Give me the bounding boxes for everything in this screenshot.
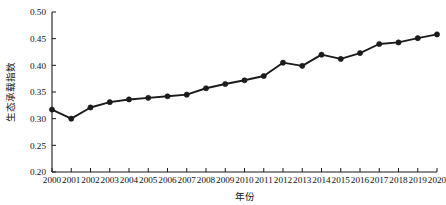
series-data-point	[107, 100, 112, 105]
x-axis-tick-label: 2011	[255, 175, 273, 185]
y-axis-title: 生态承载指数	[5, 62, 16, 122]
series-data-point	[126, 97, 131, 102]
x-axis-tick-label: 2010	[235, 175, 254, 185]
x-axis-tick-label: 2018	[389, 175, 408, 185]
x-axis-tick-label: 2005	[139, 175, 158, 185]
y-axis-tick-label: 0.30	[30, 114, 46, 124]
x-axis-tick-label: 2017	[370, 175, 389, 185]
chart-plot-area: 0.200.250.300.350.400.450.50200020012002…	[5, 7, 446, 202]
y-axis-tick-label: 0.45	[30, 34, 46, 44]
x-axis-tick-label: 2004	[120, 175, 139, 185]
series-line-ecological-index	[52, 34, 437, 118]
y-axis-tick-label: 0.50	[30, 7, 46, 17]
series-data-point	[242, 78, 247, 83]
x-axis-tick-label: 2014	[312, 175, 331, 185]
x-axis-tick-label: 2012	[274, 175, 293, 185]
series-data-point	[415, 36, 420, 41]
series-data-point	[223, 81, 228, 86]
x-axis-tick-label: 2009	[216, 175, 235, 185]
x-axis-tick-label: 2001	[62, 175, 81, 185]
series-data-point	[49, 107, 54, 112]
x-axis-tick-label: 2016	[351, 175, 370, 185]
series-data-point	[377, 41, 382, 46]
x-axis-tick-label: 2006	[158, 175, 177, 185]
x-axis-tick-label: 2019	[409, 175, 428, 185]
x-axis-tick-label: 2007	[178, 175, 197, 185]
series-data-point	[300, 63, 305, 68]
series-data-point	[434, 32, 439, 37]
series-data-point	[203, 86, 208, 91]
x-axis-title: 年份	[235, 191, 255, 202]
x-axis-tick-label: 2020	[428, 175, 446, 185]
series-data-point	[338, 56, 343, 61]
x-axis-tick-label: 2000	[43, 175, 62, 185]
series-data-point	[69, 116, 74, 121]
series-data-point	[280, 60, 285, 65]
chart-page: 0.200.250.300.350.400.450.50200020012002…	[0, 0, 446, 205]
series-data-point	[357, 50, 362, 55]
series-data-point	[184, 92, 189, 97]
line-chart: 0.200.250.300.350.400.450.50200020012002…	[0, 0, 446, 205]
x-axis-tick-label: 2015	[332, 175, 351, 185]
series-data-point	[319, 52, 324, 57]
series-data-point	[88, 105, 93, 110]
x-axis-tick-label: 2008	[197, 175, 216, 185]
x-axis-tick-label: 2003	[101, 175, 120, 185]
x-axis-tick-label: 2002	[81, 175, 100, 185]
y-axis-tick-label: 0.40	[30, 61, 46, 71]
series-data-point	[165, 94, 170, 99]
y-axis-tick-label: 0.35	[30, 87, 46, 97]
y-axis-tick-label: 0.25	[30, 141, 46, 151]
series-data-point	[146, 95, 151, 100]
series-data-point	[261, 73, 266, 78]
series-data-point	[396, 40, 401, 45]
x-axis-tick-label: 2013	[293, 175, 312, 185]
